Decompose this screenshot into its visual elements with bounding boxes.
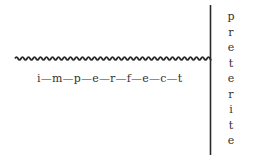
preterite-letter: t — [229, 56, 233, 72]
imperfect-label: i—m—p—e—r—f—e—c—t — [37, 72, 182, 85]
preterite-letter: r — [228, 87, 233, 103]
preterite-letter: r — [228, 25, 233, 41]
preterite-letter: i — [229, 102, 233, 118]
preterite-letter: e — [228, 40, 235, 56]
preterite-letter: e — [228, 133, 235, 149]
preterite-letter: p — [227, 9, 234, 25]
preterite-letter: e — [228, 71, 235, 87]
preterite-vertical-label: p r e t e r i t e — [224, 9, 238, 149]
imperfect-wavy-line — [15, 57, 211, 60]
preterite-letter: t — [229, 118, 233, 134]
